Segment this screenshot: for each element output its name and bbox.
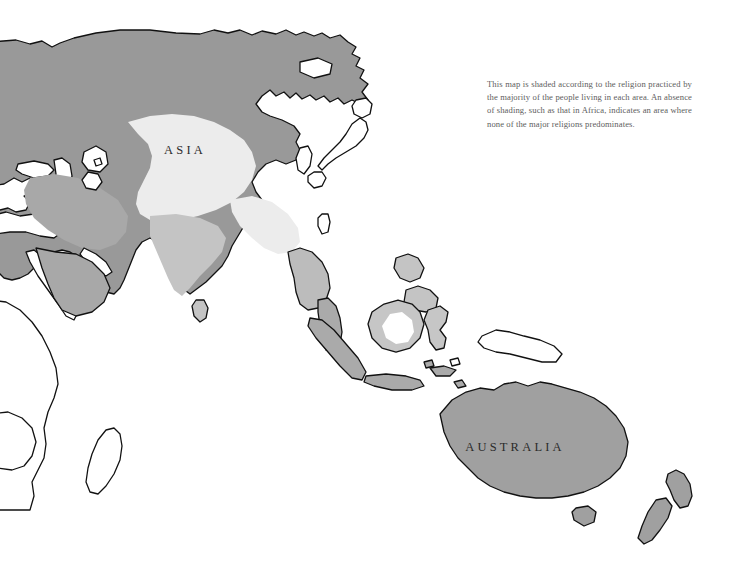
japan-hokkaido	[352, 98, 372, 118]
map-caption: This map is shaded according to the reli…	[487, 78, 692, 131]
map-page: ASIA AUSTRALIA This map is shaded accord…	[0, 0, 740, 576]
small-island-a	[424, 360, 434, 368]
taiwan	[318, 214, 330, 234]
small-island-b	[450, 358, 460, 366]
small-arctic-dot	[94, 158, 102, 166]
